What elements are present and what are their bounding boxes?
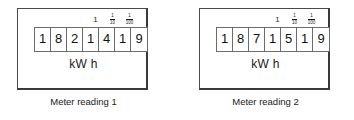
meter-figure-1: 1 1 10 1 100 1 8 2 1: [17, 8, 148, 90]
fraction-one-tenth-1: 1 10: [110, 14, 115, 25]
fraction-one-hundredth-2: 1 100: [308, 14, 316, 25]
digit-cell: 1: [217, 28, 233, 51]
meter-figure-2: 1 1 10 1 100 1 8 7 1: [199, 8, 330, 90]
digit-cell: 2: [67, 28, 83, 51]
digit-cell: 1: [83, 28, 99, 51]
fraction-denominator: 100: [126, 20, 134, 25]
digit-cell: 4: [99, 28, 115, 51]
scale-label-tenths-1: 1 10: [104, 13, 121, 26]
digit-cell: 9: [131, 28, 147, 51]
scale-label-hundredths-1: 1 100: [121, 13, 138, 26]
fraction-one-hundredth-1: 1 100: [126, 14, 134, 25]
digit-cell: 7: [249, 28, 265, 51]
digit-cell: 1: [297, 28, 313, 51]
scale-label-ones-1: 1: [87, 13, 104, 26]
digit-register-2: 1 8 7 1 5 1 9: [216, 27, 330, 52]
digit-cell: 5: [281, 28, 297, 51]
digit-cell: 1: [35, 28, 51, 51]
unit-label-2: kW h: [200, 57, 331, 71]
meter-casing-1: 1 1 10 1 100 1 8 2 1: [17, 8, 148, 90]
unit-label-1: kW h: [18, 57, 149, 71]
fraction-one-tenth-2: 1 10: [292, 14, 297, 25]
scale-label-row-2: 1 1 10 1 100: [200, 13, 331, 26]
fraction-denominator: 100: [308, 20, 316, 25]
digit-cell: 8: [233, 28, 249, 51]
fraction-denominator: 10: [110, 20, 115, 25]
meter-caption-2: Meter reading 2: [199, 96, 332, 107]
digit-cell: 8: [51, 28, 67, 51]
meter-casing-2: 1 1 10 1 100 1 8 7 1: [199, 8, 330, 90]
fraction-denominator: 10: [292, 20, 297, 25]
scale-label-ones-2: 1: [269, 13, 286, 26]
scale-label-hundredths-2: 1 100: [303, 13, 320, 26]
scale-label-row-1: 1 1 10 1 100: [18, 13, 149, 26]
meter-reading-diagram: 1 1 10 1 100 1 8 2 1: [0, 0, 354, 120]
scale-label-tenths-2: 1 10: [286, 13, 303, 26]
digit-register-1: 1 8 2 1 4 1 9: [34, 27, 148, 52]
digit-cell: 1: [265, 28, 281, 51]
digit-cell: 9: [313, 28, 329, 51]
digit-cell: 1: [115, 28, 131, 51]
meter-caption-1: Meter reading 1: [17, 96, 150, 107]
